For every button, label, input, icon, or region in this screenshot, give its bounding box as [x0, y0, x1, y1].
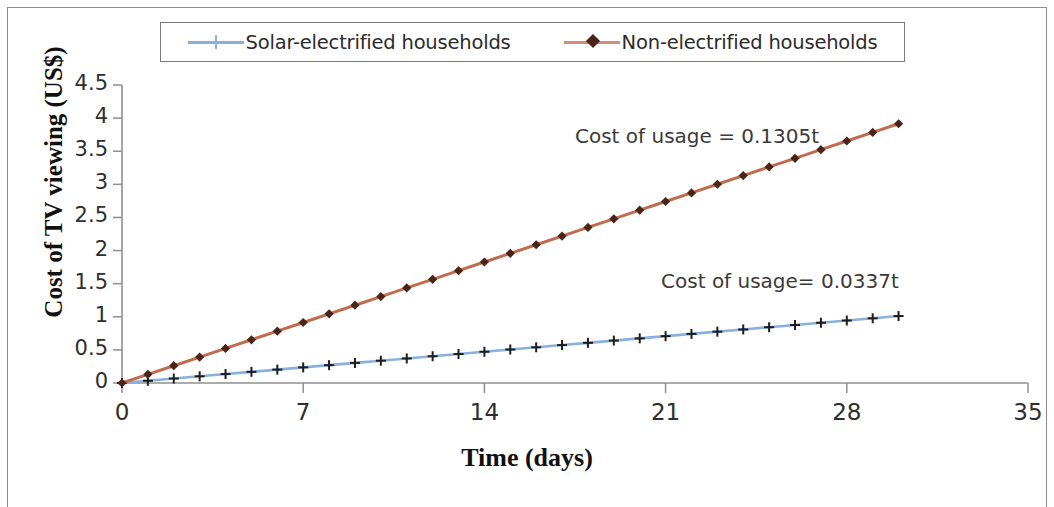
diamond-marker-icon: [480, 257, 489, 266]
plus-marker-icon: [188, 35, 244, 49]
x-tick-label: 21: [636, 399, 696, 425]
plus-marker-icon: [272, 365, 282, 375]
y-tick-label: 2.5: [38, 203, 108, 227]
axes: [113, 85, 1028, 393]
diamond-marker-icon: [350, 301, 359, 310]
plus-marker-icon: [790, 320, 800, 330]
plot-area: 00.511.522.533.544.50714212835Cost of us…: [122, 85, 1028, 383]
plus-marker-icon: [324, 360, 334, 370]
y-tick-label: 1.5: [38, 270, 108, 294]
plus-marker-icon: [894, 311, 904, 321]
y-tick-label: 3.5: [38, 137, 108, 161]
diamond-marker-icon: [428, 275, 437, 284]
plus-marker-icon: [557, 340, 567, 350]
plus-marker-icon: [402, 353, 412, 363]
diamond-marker-icon: [661, 197, 670, 206]
y-tick-label: 3: [38, 170, 108, 194]
diamond-marker-icon: [790, 154, 799, 163]
plus-marker-icon: [531, 342, 541, 352]
plus-marker-icon: [686, 329, 696, 339]
legend-label-solar: Solar-electrified households: [246, 31, 511, 54]
diamond-marker-icon: [299, 318, 308, 327]
x-tick-label: 7: [273, 399, 333, 425]
diamond-marker-icon: [609, 214, 618, 223]
diamond-marker-icon: [583, 223, 592, 232]
diamond-marker-icon: [687, 188, 696, 197]
x-tick-label: 0: [92, 399, 152, 425]
y-tick-label: 4: [38, 104, 108, 128]
x-axis-title: Time (days): [0, 443, 1054, 473]
y-tick-label: 0.5: [38, 336, 108, 360]
diamond-marker-icon: [402, 283, 411, 292]
x-tick-label: 14: [454, 399, 514, 425]
diamond-marker-icon: [564, 35, 620, 49]
plus-marker-icon: [661, 331, 671, 341]
plus-marker-icon: [169, 374, 179, 384]
chart-legend: Solar-electrified households Non-electri…: [160, 22, 905, 62]
plus-marker-icon: [738, 324, 748, 334]
legend-item-solar: Solar-electrified households: [188, 31, 511, 54]
plus-marker-icon: [868, 313, 878, 323]
diamond-marker-icon: [324, 309, 333, 318]
y-tick-label: 0: [38, 369, 108, 393]
legend-label-non-electrified: Non-electrified households: [622, 31, 878, 54]
plus-marker-icon: [479, 347, 489, 357]
diamond-marker-icon: [532, 240, 541, 249]
y-tick-label: 2: [38, 237, 108, 261]
diamond-marker-icon: [169, 361, 178, 370]
plus-marker-icon: [816, 318, 826, 328]
plus-marker-icon: [246, 367, 256, 377]
diamond-marker-icon: [713, 180, 722, 189]
plus-marker-icon: [454, 349, 464, 359]
plus-marker-icon: [221, 369, 231, 379]
plus-marker-icon: [609, 336, 619, 346]
diamond-marker-icon: [195, 352, 204, 361]
diamond-marker-icon: [376, 292, 385, 301]
diamond-marker-icon: [635, 206, 644, 215]
plus-marker-icon: [298, 362, 308, 372]
y-tick-label: 1: [38, 303, 108, 327]
plus-marker-icon: [842, 316, 852, 326]
diamond-marker-icon: [247, 335, 256, 344]
diamond-marker-icon: [894, 119, 903, 128]
diamond-marker-icon: [765, 162, 774, 171]
diamond-marker-icon: [739, 171, 748, 180]
plus-marker-icon: [505, 345, 515, 355]
annotation-solar-equation: Cost of usage= 0.0337t: [661, 269, 899, 293]
diamond-marker-icon: [506, 249, 515, 258]
diamond-marker-icon: [221, 344, 230, 353]
y-tick-label: 4.5: [38, 71, 108, 95]
plus-marker-icon: [428, 351, 438, 361]
plus-marker-icon: [635, 333, 645, 343]
diamond-marker-icon: [842, 136, 851, 145]
data-series: [117, 119, 904, 388]
plus-marker-icon: [583, 338, 593, 348]
annotation-non-electrified-equation: Cost of usage = 0.1305t: [575, 124, 819, 148]
diamond-marker-icon: [557, 231, 566, 240]
plus-marker-icon: [764, 322, 774, 332]
diamond-marker-icon: [868, 128, 877, 137]
diamond-marker-icon: [117, 378, 126, 387]
diamond-marker-icon: [143, 370, 152, 379]
plus-marker-icon: [376, 356, 386, 366]
plus-marker-icon: [712, 327, 722, 337]
plus-marker-icon: [195, 371, 205, 381]
plus-marker-icon: [350, 358, 360, 368]
diamond-marker-icon: [273, 327, 282, 336]
x-tick-label: 28: [817, 399, 877, 425]
x-tick-label: 35: [998, 399, 1054, 425]
legend-item-non-electrified: Non-electrified households: [564, 31, 878, 54]
diamond-marker-icon: [454, 266, 463, 275]
